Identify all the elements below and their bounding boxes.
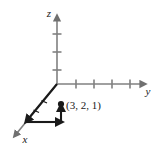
point-coordinate-label: (3, 2, 1) — [66, 99, 101, 112]
coordinate-system-svg: z y x (3, 2, 1) — [0, 0, 160, 151]
z-axis — [53, 20, 62, 84]
x-axis-label: x — [22, 133, 28, 145]
plotted-point-marker — [58, 101, 64, 107]
projection-path-group — [25, 84, 64, 122]
y-axis-label: y — [145, 85, 151, 97]
coordinate-system-figure: z y x (3, 2, 1) — [0, 0, 160, 151]
axes-group — [17, 20, 141, 133]
y-axis — [57, 80, 141, 89]
z-axis-label: z — [46, 7, 52, 19]
